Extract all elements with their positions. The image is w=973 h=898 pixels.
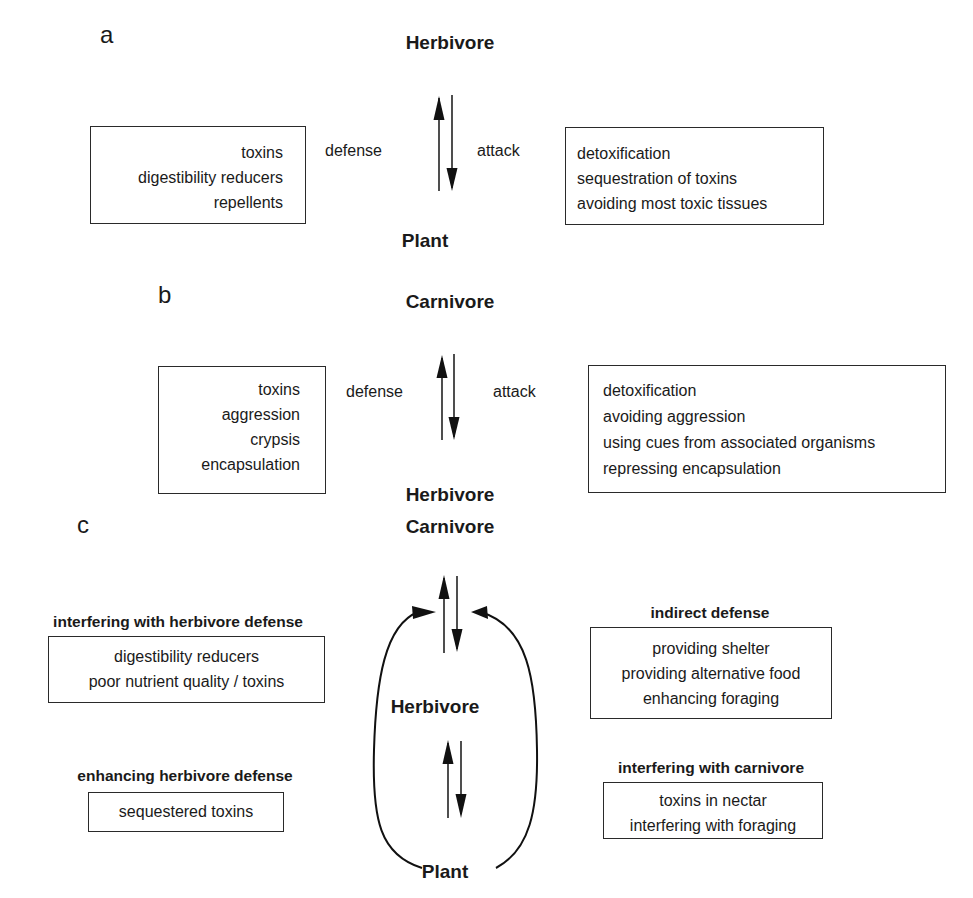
carnivore-attack-box: detoxification avoiding aggression using… [588, 365, 946, 493]
panel-c-upper-arrows [439, 575, 463, 653]
interfering-herbivore-defense-box: digestibility reducers poor nutrient qua… [48, 636, 325, 703]
group-heading-interfering-carnivore: interfering with carnivore [585, 760, 837, 776]
box-item: interfering with foraging [604, 813, 822, 838]
relation-attack: attack [493, 384, 536, 400]
node-herbivore: Herbivore [370, 697, 500, 716]
box-item: enhancing foraging [591, 686, 831, 711]
node-herbivore: Herbivore [360, 33, 540, 52]
up-arrow-icon [443, 740, 454, 764]
box-item: providing shelter [591, 636, 831, 661]
box-item: digestibility reducers [91, 165, 283, 190]
down-arrow-icon [449, 417, 460, 440]
group-heading-indirect-defense: indirect defense [600, 605, 820, 621]
herbivore-defense-box: toxins aggression crypsis encapsulation [158, 366, 326, 494]
panel-label-b: b [158, 283, 171, 307]
relation-defense: defense [346, 384, 403, 400]
up-arrow-icon [439, 575, 450, 599]
box-item: encapsulation [159, 452, 300, 477]
box-item: toxins [91, 140, 283, 165]
box-item: toxins in nectar [604, 788, 822, 813]
herbivore-attack-box: detoxification sequestration of toxins a… [565, 127, 824, 225]
box-item: repellents [91, 190, 283, 215]
up-arrow-icon [434, 96, 445, 120]
enhancing-herbivore-defense-box: sequestered toxins [88, 792, 284, 832]
panel-b-arrows [437, 354, 460, 440]
node-carnivore: Carnivore [385, 517, 515, 536]
group-heading-enhancing-herbivore-defense: enhancing herbivore defense [40, 768, 330, 784]
curved-arrow-left-icon [412, 606, 436, 619]
group-heading-interfering-herbivore-defense: interfering with herbivore defense [18, 614, 338, 630]
box-item: avoiding most toxic tissues [577, 191, 823, 216]
down-arrow-icon [447, 168, 458, 191]
up-arrow-icon [437, 355, 448, 378]
node-carnivore: Carnivore [385, 292, 515, 311]
box-item: crypsis [159, 427, 300, 452]
box-item: using cues from associated organisms [603, 430, 945, 456]
box-item: detoxification [577, 141, 823, 166]
box-item: toxins [159, 377, 300, 402]
box-item: sequestration of toxins [577, 166, 823, 191]
panel-label-c: c [77, 513, 89, 537]
panel-label-a: a [100, 23, 113, 47]
down-arrow-icon [456, 794, 467, 818]
panel-a-arrows [434, 95, 458, 191]
box-item: repressing encapsulation [603, 456, 945, 482]
box-item: avoiding aggression [603, 404, 945, 430]
plant-defense-box: toxins digestibility reducers repellents [90, 126, 306, 224]
relation-defense: defense [325, 143, 382, 159]
relation-attack: attack [477, 143, 520, 159]
node-plant: Plant [395, 862, 495, 881]
box-item: aggression [159, 402, 300, 427]
indirect-defense-box: providing shelter providing alternative … [590, 627, 832, 719]
panel-c-lower-arrows [443, 740, 467, 818]
curved-arrow-right-icon [471, 606, 488, 619]
box-item: detoxification [603, 378, 945, 404]
box-item: sequestered toxins [89, 799, 283, 824]
node-herbivore: Herbivore [385, 485, 515, 504]
node-plant: Plant [360, 231, 490, 250]
interfering-carnivore-box: toxins in nectar interfering with foragi… [603, 782, 823, 839]
box-item: poor nutrient quality / toxins [49, 669, 324, 694]
box-item: providing alternative food [591, 661, 831, 686]
box-item: digestibility reducers [49, 644, 324, 669]
down-arrow-icon [452, 629, 463, 652]
